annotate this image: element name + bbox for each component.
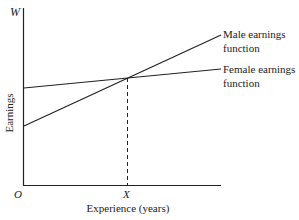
x-marker-label: X — [122, 188, 131, 200]
male-label-line2: function — [223, 42, 260, 54]
earnings-diagram: W Earnings O X Experience (years) Male e… — [0, 0, 299, 220]
male-label-line1: Male earnings — [223, 28, 286, 40]
origin-label: O — [14, 188, 22, 200]
y-axis-symbol: W — [10, 5, 21, 19]
female-earnings-line — [24, 69, 221, 88]
x-axis-label: Experience (years) — [87, 202, 170, 215]
y-axis-label: Earnings — [3, 93, 15, 132]
female-label-line2: function — [223, 77, 260, 89]
male-earnings-line — [24, 35, 221, 126]
female-label-line1: Female earnings — [223, 63, 295, 75]
